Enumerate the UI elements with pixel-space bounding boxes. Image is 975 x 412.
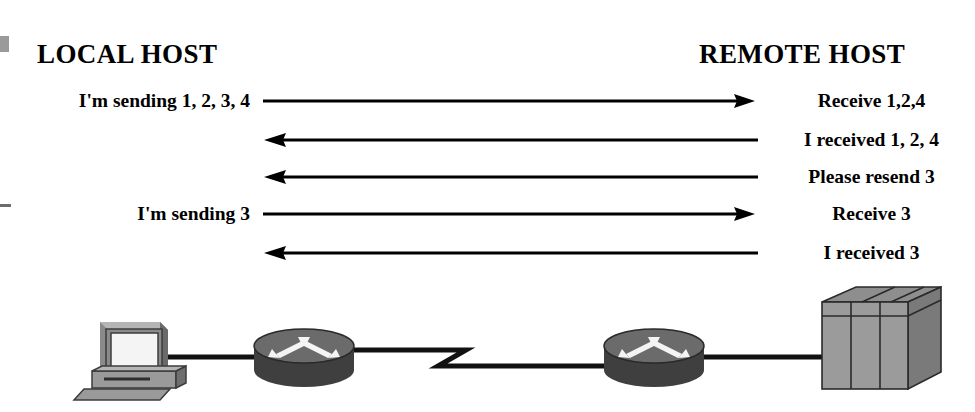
- local-router-icon: [254, 329, 354, 387]
- server-icon: [822, 287, 941, 389]
- workstation-icon: [74, 322, 186, 400]
- wan-serial-link: [350, 350, 608, 366]
- diagram-canvas: LOCAL HOST REMOTE HOST I'm sending 1, 2,…: [0, 0, 975, 412]
- remote-router-icon: [604, 329, 704, 387]
- network-topology: [0, 0, 975, 412]
